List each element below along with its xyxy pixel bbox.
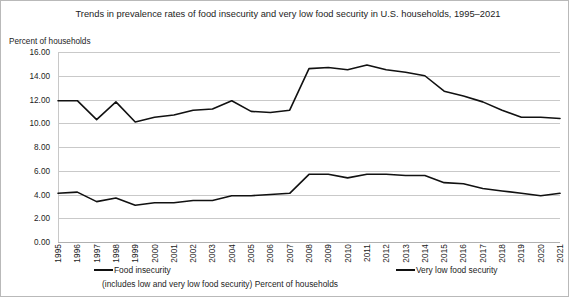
y-axis-tick-label: 2.00 bbox=[2, 214, 50, 223]
legend-item-food-insecurity: Food insecurity bbox=[94, 265, 171, 275]
chart-figure: Trends in prevalence rates of food insec… bbox=[0, 0, 569, 297]
x-axis-tick-label: 2013 bbox=[401, 244, 410, 263]
x-axis-tick-label: 2017 bbox=[478, 244, 487, 263]
y-axis-tick-label: 14.00 bbox=[2, 71, 50, 80]
x-axis-tick-label: 2005 bbox=[247, 244, 256, 263]
x-axis-tick-label: 2014 bbox=[420, 244, 429, 263]
x-axis-tick-label: 1995 bbox=[54, 244, 63, 263]
y-axis-tick-label: 4.00 bbox=[2, 190, 50, 199]
x-axis-tick-label: 2004 bbox=[227, 244, 236, 263]
legend-subcaption: (includes low and very low food security… bbox=[102, 279, 338, 289]
plot-area bbox=[58, 52, 560, 242]
x-axis-tick-label: 2011 bbox=[362, 244, 371, 262]
y-axis-tick-label: 6.00 bbox=[2, 166, 50, 175]
y-axis-tick-label: 12.00 bbox=[2, 95, 50, 104]
x-axis-tick-label: 2019 bbox=[517, 244, 526, 263]
series-lines bbox=[58, 52, 560, 242]
series-line bbox=[58, 174, 560, 205]
x-axis-tick-label: 2009 bbox=[324, 244, 333, 263]
x-axis-tick-label: 2002 bbox=[189, 244, 198, 263]
series-line bbox=[58, 65, 560, 122]
legend-item-very-low-food-security: Very low food security bbox=[396, 265, 497, 275]
x-axis-tick-label: 1999 bbox=[131, 244, 140, 263]
x-axis-tick-label: 2016 bbox=[459, 244, 468, 263]
x-axis-tick-label: 2003 bbox=[208, 244, 217, 263]
y-axis-tick-label: 8.00 bbox=[2, 143, 50, 152]
x-axis-tick-label: 2010 bbox=[343, 244, 352, 263]
x-axis-tick-label: 2012 bbox=[382, 244, 391, 263]
x-axis-tick-label: 1997 bbox=[92, 244, 101, 263]
y-axis-tick-label: 0.00 bbox=[2, 238, 50, 247]
x-axis-tick-label: 2007 bbox=[285, 244, 294, 263]
x-axis-tick-label: 2006 bbox=[266, 244, 275, 263]
x-axis-tick-label: 2015 bbox=[440, 244, 449, 263]
y-axis-tick-label: 16.00 bbox=[2, 48, 50, 57]
chart-title: Trends in prevalence rates of food insec… bbox=[65, 8, 511, 22]
legend-swatch-icon bbox=[94, 269, 113, 271]
x-axis-tick-label: 1996 bbox=[73, 244, 82, 263]
x-axis-tick-label: 2000 bbox=[150, 244, 159, 263]
x-axis-tick-label: 1998 bbox=[111, 244, 120, 263]
y-axis-title: Percent of households bbox=[9, 37, 90, 46]
legend-label: Food insecurity bbox=[114, 265, 171, 275]
legend-swatch-icon bbox=[396, 269, 415, 271]
x-axis-tick-label: 2001 bbox=[169, 244, 178, 263]
legend-label: Very low food security bbox=[416, 265, 497, 275]
x-axis-tick-label: 2021 bbox=[556, 244, 565, 263]
x-axis-tick-label: 2008 bbox=[305, 244, 314, 263]
x-axis-tick-label: 2020 bbox=[536, 244, 545, 263]
x-axis-tick-label: 2018 bbox=[498, 244, 507, 263]
y-axis-tick-label: 10.00 bbox=[2, 119, 50, 128]
chart-legend: Food insecurity Very low food security (… bbox=[1, 265, 569, 297]
